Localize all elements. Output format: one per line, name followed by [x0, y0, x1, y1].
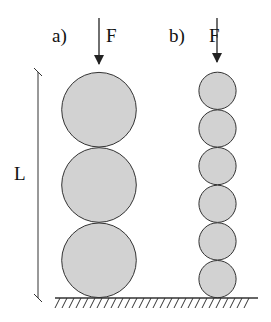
label-length: L [14, 163, 26, 184]
label-a: a) [52, 25, 67, 47]
sphere-column-b [199, 72, 236, 298]
label-force-a: F [106, 25, 117, 46]
sphere-column-a [62, 72, 137, 297]
length-dimension-line [34, 68, 42, 302]
label-b: b) [169, 25, 185, 47]
label-force-b: F [209, 25, 220, 46]
force-arrow-a [94, 18, 104, 65]
diagram-canvas: a) F b) F L [0, 0, 271, 322]
ground [55, 298, 258, 308]
